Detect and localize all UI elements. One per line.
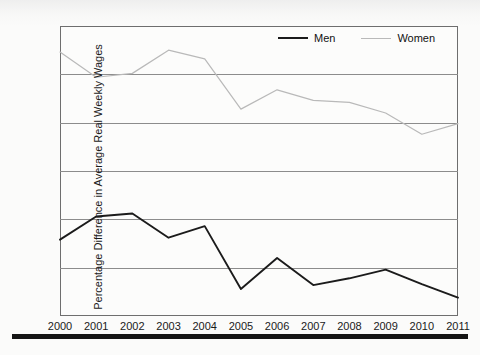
x-tick-label: 2000 bbox=[48, 320, 72, 332]
women-line-swatch-icon bbox=[361, 38, 391, 39]
x-tick-label: 2004 bbox=[192, 320, 216, 332]
x-tick-label: 2009 bbox=[373, 320, 397, 332]
x-tick-label: 2007 bbox=[301, 320, 325, 332]
legend-item-men: Men bbox=[278, 32, 335, 44]
chart-legend: Men Women bbox=[278, 32, 435, 44]
x-tick-label: 2003 bbox=[156, 320, 180, 332]
legend-label-men: Men bbox=[314, 32, 335, 44]
series-plot-lines bbox=[60, 26, 458, 316]
x-tick-label: 2006 bbox=[265, 320, 289, 332]
x-tick-label: 2001 bbox=[84, 320, 108, 332]
women-series-line bbox=[60, 50, 458, 134]
y-axis-title: Percentage Difference in Average Real We… bbox=[92, 27, 104, 327]
line-chart: 35404550556065 Men Women Percentage Diff… bbox=[60, 26, 458, 316]
x-tick-label: 2010 bbox=[410, 320, 434, 332]
legend-item-women: Women bbox=[361, 32, 435, 44]
x-tick-label: 2002 bbox=[120, 320, 144, 332]
men-series-line bbox=[60, 214, 458, 298]
x-tick-label: 2008 bbox=[337, 320, 361, 332]
men-line-swatch-icon bbox=[278, 37, 308, 39]
x-tick-label: 2005 bbox=[229, 320, 253, 332]
legend-label-women: Women bbox=[397, 32, 435, 44]
x-tick-label: 2011 bbox=[446, 320, 470, 332]
scan-edge-artifact bbox=[12, 334, 468, 339]
